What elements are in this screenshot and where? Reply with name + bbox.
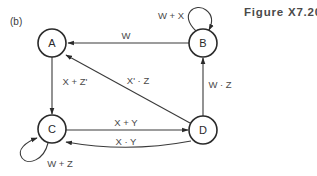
state-node-b: B	[189, 29, 217, 57]
edge-label-d-to-c: X · Y	[116, 136, 138, 147]
edge-a-to-c: X + Z'	[52, 57, 88, 114]
edge-b-to-a: W	[68, 30, 189, 44]
state-node-c: C	[38, 115, 66, 143]
edge-label-c-self: W + Z	[47, 158, 73, 169]
edge-d-to-b: W · Z	[203, 58, 232, 116]
edge-label-b-to-a: W	[122, 30, 131, 41]
state-node-d: D	[189, 116, 217, 144]
edge-label-b-self: W + X	[158, 10, 185, 21]
edge-d-to-c: X · Y	[66, 136, 191, 148]
edge-label-a-to-c: X + Z'	[63, 76, 88, 87]
node-label-c: C	[48, 123, 56, 135]
panel-label: (b)	[10, 16, 22, 27]
edge-label-d-to-b: W · Z	[208, 79, 231, 90]
state-diagram: (b) W W + X X + Z' X' · Z W · Z X + Y X …	[0, 0, 317, 176]
edge-line	[188, 7, 211, 31]
edge-label-c-to-d: X + Y	[114, 117, 138, 128]
edge-b-self-loop: W + X	[158, 7, 212, 31]
edge-label-d-to-a: X' · Z	[127, 75, 150, 86]
edge-line	[66, 55, 190, 123]
edge-c-to-d: X + Y	[66, 117, 188, 131]
node-label-b: B	[199, 37, 206, 49]
node-label-a: A	[48, 37, 56, 49]
edge-d-to-a: X' · Z	[66, 55, 190, 123]
state-node-a: A	[38, 29, 66, 57]
edge-line	[20, 138, 48, 162]
node-label-d: D	[199, 124, 207, 136]
